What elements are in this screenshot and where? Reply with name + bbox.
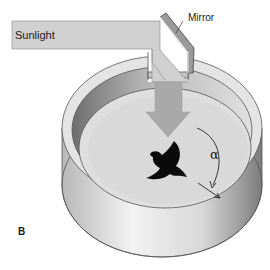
orientation-cage-diagram: Sunlight Mirror α B <box>0 0 270 270</box>
angle-alpha-label: α <box>210 147 219 162</box>
mirror-label: Mirror <box>188 12 214 23</box>
panel-label: B <box>18 226 25 237</box>
sunlight-label: Sunlight <box>15 29 55 41</box>
